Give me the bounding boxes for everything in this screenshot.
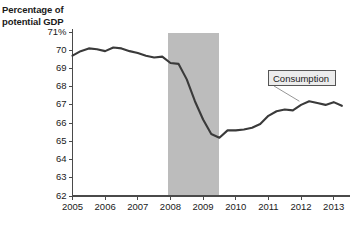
y-tick-label: 67 <box>33 99 67 109</box>
x-tick-label: 2010 <box>219 202 253 212</box>
y-tick-label: 71% <box>33 27 67 37</box>
x-tick-label: 2013 <box>317 202 351 212</box>
y-tick-label: 70 <box>33 45 67 55</box>
x-tick-label: 2012 <box>284 202 318 212</box>
x-tick-label: 2006 <box>88 202 122 212</box>
y-tick-label: 62 <box>33 191 67 201</box>
x-tick-label: 2009 <box>186 202 220 212</box>
x-axis-ticks <box>73 196 334 200</box>
recession-shading-group <box>168 33 220 196</box>
x-tick-label: 2011 <box>251 202 285 212</box>
y-axis-ticks <box>69 32 73 196</box>
y-tick-label: 68 <box>33 81 67 91</box>
consumption-callout-label: Consumption <box>268 70 336 86</box>
y-tick-label: 66 <box>33 118 67 128</box>
y-tick-label: 65 <box>33 136 67 146</box>
x-tick-label: 2005 <box>56 202 90 212</box>
x-tick-label: 2008 <box>153 202 187 212</box>
y-tick-label: 64 <box>33 154 67 164</box>
y-tick-label: 63 <box>33 172 67 182</box>
callout-leader-line <box>274 86 299 101</box>
chart-figure: Percentage of potential GDP 626364656667… <box>0 0 357 228</box>
y-tick-label: 69 <box>33 63 67 73</box>
x-tick-label: 2007 <box>121 202 155 212</box>
